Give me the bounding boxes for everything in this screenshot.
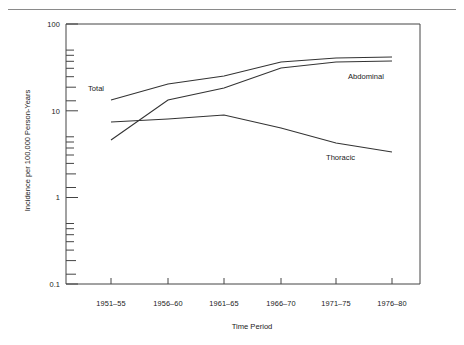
- y-axis-title: Incidence per 100,000 Person-Years: [23, 61, 32, 241]
- x-tick-label-1951-55: 1951–55: [81, 299, 141, 308]
- series-label-thoracic: Thoracic: [326, 153, 355, 162]
- x-axis-ticks: [111, 278, 392, 284]
- series-line-thoracic: [111, 115, 392, 152]
- x-tick-label-1956-60: 1956–60: [138, 299, 198, 308]
- x-tick-label-1971-75: 1971–75: [306, 299, 366, 308]
- x-tick-label-1961-65: 1961–65: [194, 299, 254, 308]
- y-tick-label-0-1: 0.1: [30, 280, 60, 289]
- x-axis-title: Time Period: [111, 322, 393, 331]
- x-tick-label-1966-70: 1966–70: [251, 299, 311, 308]
- y-tick-label-100: 100: [34, 20, 60, 29]
- y-tick-label-1: 1: [34, 193, 60, 202]
- line-chart-plot: [0, 0, 464, 345]
- figure-canvas: 100 10 1 0.1 1951–55 1956–60 1961–65 196…: [0, 0, 464, 345]
- y-tick-label-10: 10: [34, 107, 60, 116]
- series-label-total: Total: [88, 84, 104, 93]
- axis-frame: [66, 24, 420, 284]
- y-axis-ticks: [66, 24, 78, 284]
- x-tick-label-1976-80: 1976–80: [362, 299, 422, 308]
- series-label-abdominal: Abdominal: [348, 72, 384, 81]
